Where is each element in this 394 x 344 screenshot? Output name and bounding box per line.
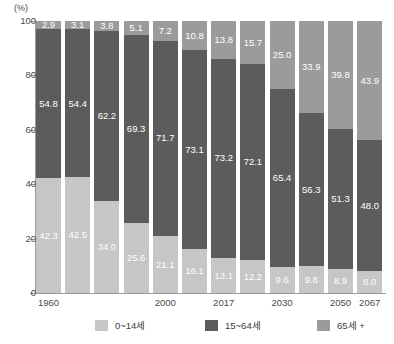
segment-value-label: 2.9 bbox=[42, 21, 55, 29]
bar-column[interactable]: 39.851.38.9 bbox=[328, 21, 353, 293]
legend-label: 15~64세 bbox=[225, 318, 261, 332]
segment-value-label: 3.1 bbox=[71, 21, 84, 29]
segment-0-14[interactable]: 8.0 bbox=[357, 271, 382, 293]
x-axis-tick-label: 1960 bbox=[27, 297, 71, 308]
segment-value-label: 25.6 bbox=[127, 253, 146, 263]
legend-label: 65세 + bbox=[337, 318, 365, 332]
segment-0-14[interactable]: 16.1 bbox=[182, 249, 207, 293]
legend-label: 0~14세 bbox=[115, 318, 145, 332]
x-axis-tick-label: 2017 bbox=[202, 297, 246, 308]
segment-15-64[interactable]: 69.3 bbox=[124, 35, 149, 223]
segment-15-64[interactable]: 65.4 bbox=[270, 89, 295, 267]
segment-0-14[interactable]: 9.8 bbox=[299, 266, 324, 293]
segment-0-14[interactable]: 42.5 bbox=[65, 177, 90, 293]
bar-column[interactable]: 15.772.112.2 bbox=[240, 21, 265, 293]
segment-65-plus[interactable]: 33.9 bbox=[299, 21, 324, 113]
segment-15-64[interactable]: 72.1 bbox=[240, 64, 265, 260]
segment-0-14[interactable]: 25.6 bbox=[124, 223, 149, 293]
segment-value-label: 51.3 bbox=[331, 194, 350, 204]
bar-column[interactable]: 43.948.08.0 bbox=[357, 21, 382, 293]
bar-column[interactable]: 33.956.39.8 bbox=[299, 21, 324, 293]
segment-value-label: 48.0 bbox=[360, 201, 379, 211]
segment-15-64[interactable]: 71.7 bbox=[153, 41, 178, 236]
segment-0-14[interactable]: 13.1 bbox=[211, 258, 236, 294]
segment-value-label: 54.4 bbox=[68, 99, 87, 109]
segment-value-label: 10.8 bbox=[185, 31, 204, 41]
bar-column[interactable]: 10.873.116.1 bbox=[182, 21, 207, 293]
segment-value-label: 21.1 bbox=[156, 260, 175, 270]
segment-0-14[interactable]: 42.3 bbox=[36, 178, 61, 293]
segment-65-plus[interactable]: 3.8 bbox=[94, 21, 119, 31]
bar-column[interactable]: 13.873.213.1 bbox=[211, 21, 236, 293]
y-axis-tick-label: 80 bbox=[10, 70, 36, 80]
x-axis-tick-label: 2067 bbox=[348, 297, 392, 308]
segment-15-64[interactable]: 56.3 bbox=[299, 113, 324, 266]
legend-color-swatch bbox=[95, 320, 108, 331]
segment-value-label: 54.8 bbox=[39, 99, 58, 109]
segment-value-label: 33.9 bbox=[302, 62, 321, 72]
segment-value-label: 65.4 bbox=[273, 173, 292, 183]
segment-65-plus[interactable]: 5.1 bbox=[124, 21, 149, 35]
segment-value-label: 42.5 bbox=[68, 230, 87, 240]
segment-value-label: 7.2 bbox=[159, 26, 172, 36]
y-axis-unit-label: (%) bbox=[14, 3, 28, 13]
legend-item[interactable]: 15~64세 bbox=[205, 317, 261, 333]
segment-value-label: 8.0 bbox=[363, 277, 376, 287]
segment-value-label: 42.3 bbox=[39, 231, 58, 241]
segment-value-label: 69.3 bbox=[127, 124, 146, 134]
segment-65-plus[interactable]: 10.8 bbox=[182, 21, 207, 50]
segment-0-14[interactable]: 8.9 bbox=[328, 269, 353, 293]
bar-column[interactable]: 7.271.721.1 bbox=[153, 21, 178, 293]
segment-65-plus[interactable]: 2.9 bbox=[36, 21, 61, 29]
segment-65-plus[interactable]: 15.7 bbox=[240, 21, 265, 64]
y-axis-tick-label: 20 bbox=[10, 234, 36, 244]
segment-0-14[interactable]: 9.6 bbox=[270, 267, 295, 293]
segment-0-14[interactable]: 34.0 bbox=[94, 201, 119, 293]
segment-15-64[interactable]: 54.8 bbox=[36, 29, 61, 178]
segment-value-label: 34.0 bbox=[98, 242, 117, 252]
x-axis-tick-label: 2030 bbox=[260, 297, 304, 308]
legend-item[interactable]: 0~14세 bbox=[95, 317, 145, 333]
legend-color-swatch bbox=[205, 320, 218, 331]
population-age-structure-chart: (%) 020406080100 2.954.842.33.154.442.53… bbox=[0, 0, 394, 344]
bar-column[interactable]: 5.169.325.6 bbox=[124, 21, 149, 293]
segment-value-label: 72.1 bbox=[244, 157, 263, 167]
bar-column[interactable]: 2.954.842.3 bbox=[36, 21, 61, 293]
y-axis-tick-label: 60 bbox=[10, 125, 36, 135]
bar-column[interactable]: 25.065.49.6 bbox=[270, 21, 295, 293]
plot-area: 2.954.842.33.154.442.53.862.234.05.169.3… bbox=[36, 21, 386, 293]
segment-value-label: 8.9 bbox=[334, 276, 347, 286]
chart-legend: 0~14세15~64세65세 + bbox=[35, 317, 386, 337]
segment-65-plus[interactable]: 7.2 bbox=[153, 21, 178, 41]
segment-value-label: 43.9 bbox=[360, 76, 379, 86]
segment-15-64[interactable]: 54.4 bbox=[65, 29, 90, 177]
segment-15-64[interactable]: 73.1 bbox=[182, 50, 207, 249]
segment-65-plus[interactable]: 25.0 bbox=[270, 21, 295, 89]
segment-65-plus[interactable]: 3.1 bbox=[65, 21, 90, 29]
segment-0-14[interactable]: 21.1 bbox=[153, 236, 178, 293]
segment-15-64[interactable]: 48.0 bbox=[357, 140, 382, 271]
bar-column[interactable]: 3.862.234.0 bbox=[94, 21, 119, 293]
segment-value-label: 9.8 bbox=[305, 275, 318, 285]
segment-value-label: 71.7 bbox=[156, 133, 175, 143]
segment-15-64[interactable]: 51.3 bbox=[328, 129, 353, 269]
segment-0-14[interactable]: 12.2 bbox=[240, 260, 265, 293]
x-axis-line bbox=[35, 293, 386, 294]
bar-column[interactable]: 3.154.442.5 bbox=[65, 21, 90, 293]
segment-value-label: 39.8 bbox=[331, 70, 350, 80]
segment-value-label: 12.2 bbox=[244, 272, 263, 282]
segment-15-64[interactable]: 62.2 bbox=[94, 31, 119, 200]
y-axis-tick-label: 40 bbox=[10, 179, 36, 189]
segment-65-plus[interactable]: 43.9 bbox=[357, 21, 382, 140]
segment-65-plus[interactable]: 39.8 bbox=[328, 21, 353, 129]
segment-65-plus[interactable]: 13.8 bbox=[211, 21, 236, 59]
segment-15-64[interactable]: 73.2 bbox=[211, 59, 236, 258]
y-axis-tick-label: 100 bbox=[10, 16, 36, 26]
segment-value-label: 73.1 bbox=[185, 145, 204, 155]
segment-value-label: 13.1 bbox=[214, 271, 233, 281]
legend-color-swatch bbox=[317, 320, 330, 331]
legend-item[interactable]: 65세 + bbox=[317, 317, 365, 333]
segment-value-label: 15.7 bbox=[244, 38, 263, 48]
segment-value-label: 16.1 bbox=[185, 266, 204, 276]
segment-value-label: 13.8 bbox=[214, 35, 233, 45]
